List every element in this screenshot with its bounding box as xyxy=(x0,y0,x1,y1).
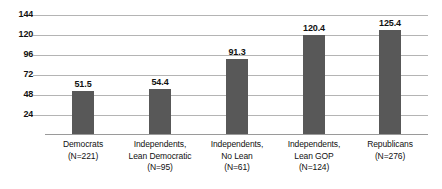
bar-independents-no-lean[interactable] xyxy=(226,59,248,134)
bar-group-independents-lean-gop: 120.4 xyxy=(276,15,352,135)
x-label-line: Republicans xyxy=(348,139,432,151)
bar-value-independents-no-lean: 91.3 xyxy=(228,47,245,57)
y-axis: 144 120 96 72 48 24 xyxy=(0,15,33,135)
tick-mark-72 xyxy=(33,75,45,76)
bar-independents-lean-gop[interactable] xyxy=(303,35,325,134)
x-label-line: Independents, xyxy=(272,139,356,151)
bar-group-independents-no-lean: 91.3 xyxy=(199,15,275,135)
bar-democrats[interactable] xyxy=(72,91,94,134)
x-label-line: (N=95) xyxy=(118,162,202,174)
bar-group-independents-lean-democratic: 54.4 xyxy=(122,15,198,135)
x-label-independents-lean-democratic: Independents, Lean Democratic (N=95) xyxy=(118,139,202,174)
y-tick-label-96: 96 xyxy=(3,50,33,59)
x-label-line: No Lean xyxy=(195,151,279,163)
x-label-line: Lean Democratic xyxy=(118,151,202,163)
bar-value-republicans: 125.4 xyxy=(379,18,401,28)
tick-mark-96 xyxy=(33,55,45,56)
x-label-line: (N=221) xyxy=(41,151,125,163)
x-label-line: (N=124) xyxy=(272,162,356,174)
bar-group-democrats: 51.5 xyxy=(45,15,121,135)
x-axis: Democrats (N=221) Independents, Lean Dem… xyxy=(45,139,428,185)
bar-value-democrats: 51.5 xyxy=(74,79,91,89)
x-label-line: (N=61) xyxy=(195,162,279,174)
y-tick-label-72: 72 xyxy=(3,70,33,79)
x-label-line: (N=276) xyxy=(348,151,432,163)
bar-chart: 144 120 96 72 48 24 51.5 54.4 xyxy=(0,0,442,189)
x-label-line: Lean GOP xyxy=(272,151,356,163)
x-label-independents-no-lean: Independents, No Lean (N=61) xyxy=(195,139,279,174)
bar-value-independents-lean-democratic: 54.4 xyxy=(151,77,168,87)
x-label-republicans: Republicans (N=276) xyxy=(348,139,432,162)
x-label-line: Democrats xyxy=(41,139,125,151)
y-tick-label-48: 48 xyxy=(3,90,33,99)
bar-group-republicans: 125.4 xyxy=(352,15,428,135)
tick-mark-120 xyxy=(33,35,45,36)
tick-mark-24 xyxy=(33,115,45,116)
bar-republicans[interactable] xyxy=(379,30,401,134)
bar-independents-lean-democratic[interactable] xyxy=(149,89,171,134)
y-tick-label-24: 24 xyxy=(3,110,33,119)
x-label-line: Independents, xyxy=(118,139,202,151)
y-tick-label-120: 120 xyxy=(3,30,33,39)
tick-mark-48 xyxy=(33,95,45,96)
plot-area: 51.5 54.4 91.3 120.4 125.4 xyxy=(45,15,428,135)
x-label-line: Independents, xyxy=(195,139,279,151)
x-label-independents-lean-gop: Independents, Lean GOP (N=124) xyxy=(272,139,356,174)
x-label-democrats: Democrats (N=221) xyxy=(41,139,125,162)
tick-mark-144 xyxy=(33,15,45,16)
bar-value-independents-lean-gop: 120.4 xyxy=(303,23,325,33)
y-tick-label-144: 144 xyxy=(3,10,33,19)
